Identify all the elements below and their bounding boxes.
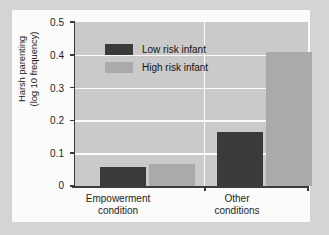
bar-high-empowerment [149, 164, 195, 186]
y-tick-mark [70, 54, 75, 56]
legend-label: Low risk infant [142, 44, 206, 55]
y-tick-mark [70, 21, 75, 23]
legend-item-low-risk-infant: Low risk infant [105, 40, 208, 58]
legend-item-high-risk-infant: High risk infant [105, 58, 208, 76]
y-tick-label: 0.2 [38, 116, 64, 126]
y-tick-label: 0.5 [38, 18, 64, 28]
bar-low-empowerment [100, 167, 146, 186]
plot-area: Low risk infant High risk infant [74, 22, 308, 186]
y-tick-label: 0.1 [38, 149, 64, 159]
y-axis-tick-labels: 0.5 0.4 0.3 0.2 0.1 0 [34, 10, 64, 222]
y-tick-label: 0.3 [38, 84, 64, 94]
y-tick-mark [70, 120, 75, 122]
y-tick-mark [70, 87, 75, 89]
legend-swatch-icon [105, 62, 133, 73]
y-tick-label: 0.4 [38, 51, 64, 61]
legend-label: High risk infant [142, 62, 208, 73]
bar-high-other [266, 52, 312, 186]
legend: Low risk infant High risk infant [105, 40, 208, 76]
x-category-label-empowerment: Empowerment condition [64, 193, 172, 216]
y-tick-label: 0 [38, 181, 64, 191]
bar-low-other [217, 132, 263, 186]
x-category-label-other: Other conditions [187, 193, 287, 216]
x-axis-line [72, 186, 308, 188]
legend-swatch-icon [105, 44, 133, 55]
y-tick-mark [70, 152, 75, 154]
figure-card: Harsh parenting (log 10 frequency) 0.5 0… [12, 10, 310, 222]
